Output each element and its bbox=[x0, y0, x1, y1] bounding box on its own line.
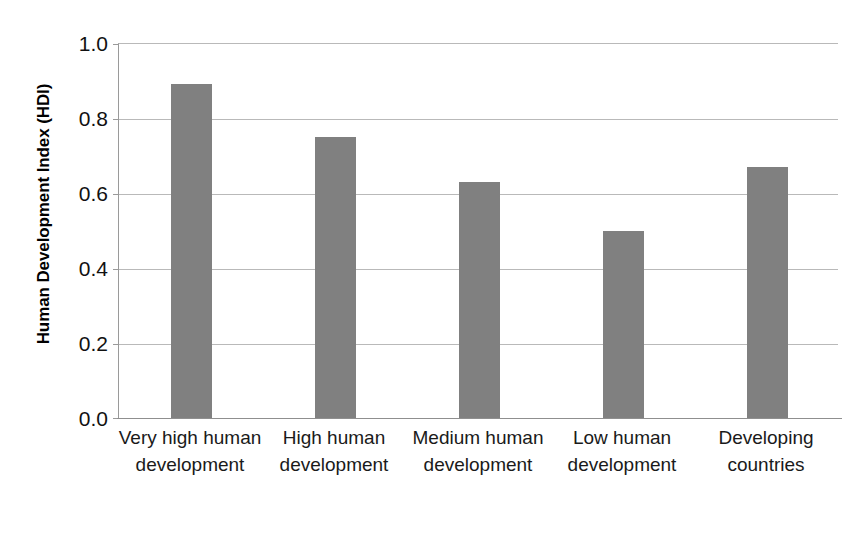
y-axis-tick-labels: 1.0 0.8 0.6 0.4 0.2 0.0 bbox=[48, 0, 108, 548]
bar-low-human-development[interactable] bbox=[603, 231, 644, 419]
bar-slot-3 bbox=[551, 44, 695, 418]
y-tick-label-0.0: 0.0 bbox=[48, 408, 108, 429]
y-tick-label-0.6: 0.6 bbox=[48, 183, 108, 204]
bar-developing-countries[interactable] bbox=[747, 167, 788, 418]
y-tick-label-0.2: 0.2 bbox=[48, 333, 108, 354]
bar-medium-human-development[interactable] bbox=[459, 182, 500, 418]
y-tick-label-0.4: 0.4 bbox=[48, 258, 108, 279]
x-axis-category-labels: Very high human development High human d… bbox=[118, 424, 838, 544]
category-label-2: Medium human development bbox=[406, 424, 550, 478]
bar-chart: Human Development Index (HDI) 1.0 0.8 0.… bbox=[0, 0, 864, 548]
category-label-0: Very high human development bbox=[118, 424, 262, 478]
category-label-4: Developing countries bbox=[694, 424, 838, 478]
bar-slot-2 bbox=[407, 44, 551, 418]
bar-slot-0 bbox=[119, 44, 263, 418]
bars-layer bbox=[119, 44, 838, 418]
y-tick-label-0.8: 0.8 bbox=[48, 108, 108, 129]
category-label-1: High human development bbox=[262, 424, 406, 478]
bar-slot-1 bbox=[263, 44, 407, 418]
bar-very-high-human-development[interactable] bbox=[171, 84, 212, 418]
bar-high-human-development[interactable] bbox=[315, 137, 356, 418]
category-label-3: Low human development bbox=[550, 424, 694, 478]
plot-area bbox=[118, 43, 838, 418]
bar-slot-4 bbox=[695, 44, 839, 418]
x-axis-baseline bbox=[117, 418, 842, 419]
y-tick-label-1.0: 1.0 bbox=[48, 33, 108, 54]
